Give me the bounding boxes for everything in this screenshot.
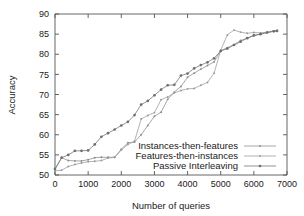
series-point (207, 81, 209, 83)
series-point (140, 103, 143, 106)
series-point (233, 29, 235, 31)
x-axis-title: Number of queries (132, 200, 210, 211)
series-point (167, 98, 169, 100)
series-point (160, 111, 162, 113)
series-point (233, 44, 236, 47)
series-point (93, 143, 96, 146)
series-point (140, 118, 142, 120)
series-point (226, 34, 228, 36)
series-point (107, 132, 110, 135)
series-point (81, 160, 83, 162)
series-point (80, 150, 83, 153)
series-point (272, 30, 275, 33)
series-point (200, 84, 202, 86)
y-tick-label: 55 (39, 150, 49, 160)
legend-sample-1 (244, 145, 276, 147)
series-point (87, 161, 89, 163)
line-chart: 505560657075808590 010002000300040005000… (0, 0, 304, 216)
series-point (266, 31, 269, 34)
chart-figure: 505560657075808590 010002000300040005000… (0, 0, 304, 216)
series-point (246, 32, 248, 34)
y-tick-label: 60 (39, 130, 49, 140)
series-point (213, 72, 215, 74)
legend-sample-2 (244, 155, 276, 157)
series-point (67, 154, 70, 157)
x-tick-label: 6000 (244, 179, 264, 189)
x-tick-label: 4000 (178, 179, 198, 189)
series-point (127, 121, 130, 124)
x-axis-tick-labels: 01000200030004000500060007000 (52, 179, 297, 189)
series-point (94, 160, 96, 162)
series-point (153, 115, 155, 117)
series-point (113, 128, 116, 131)
x-tick-label: 3000 (144, 179, 164, 189)
series-point (94, 157, 96, 159)
y-tick-label: 75 (39, 70, 49, 80)
series-point (259, 33, 262, 36)
series-point (193, 67, 196, 70)
series-point (226, 47, 229, 50)
series-point (193, 72, 195, 74)
y-tick-label: 50 (39, 170, 49, 180)
x-tick-label: 5000 (211, 179, 231, 189)
series-point (253, 32, 255, 34)
y-axis-title: Accuracy (6, 75, 17, 114)
series-point (167, 96, 169, 98)
series-point (147, 114, 149, 116)
series-point (61, 169, 63, 171)
series-point (219, 50, 222, 53)
series-point (173, 83, 176, 86)
x-tick-label: 2000 (111, 179, 131, 189)
x-tick-label: 0 (52, 179, 57, 189)
x-tick-label: 1000 (78, 179, 98, 189)
y-tick-label: 90 (39, 9, 49, 19)
legend-label-3: Passive Interleaving (153, 160, 238, 171)
series-point (74, 150, 77, 153)
series-point (127, 143, 129, 145)
series-point (67, 166, 69, 168)
series-point (240, 31, 242, 33)
series-point (120, 124, 123, 127)
series-point (239, 40, 242, 43)
series-point (246, 37, 249, 40)
series-point (81, 162, 83, 164)
series-point (100, 156, 102, 158)
series-point (206, 61, 209, 64)
series-point (160, 99, 162, 101)
series-point (133, 114, 136, 117)
series-point (180, 86, 182, 88)
series-point (166, 84, 169, 87)
series-point (120, 149, 122, 151)
chart-legend: Instances-then-featuresFeatures-then-ins… (136, 140, 276, 171)
series-point (160, 88, 163, 91)
series-point (153, 112, 155, 114)
series-point (187, 88, 189, 90)
series-point (87, 159, 89, 161)
y-axis-tick-labels: 505560657075808590 (39, 9, 49, 180)
legend-sample-3 (244, 165, 276, 168)
series-point (67, 160, 69, 162)
series-point (276, 30, 279, 33)
series-point (200, 68, 202, 70)
series-point (153, 94, 156, 97)
series-point (114, 156, 116, 158)
series-point (180, 74, 183, 77)
series-point (54, 168, 57, 171)
series-point (193, 88, 195, 90)
series-point (140, 134, 142, 136)
series-point (213, 61, 215, 63)
series-point (199, 64, 202, 67)
series-point (213, 57, 216, 60)
series-point (107, 157, 109, 159)
series-point (100, 135, 103, 138)
series-point (60, 156, 63, 159)
series-point (253, 34, 256, 37)
series-point (207, 65, 209, 67)
series-point (74, 160, 76, 162)
y-tick-label: 70 (39, 90, 49, 100)
series-point (147, 125, 149, 127)
x-tick-label: 7000 (277, 179, 297, 189)
series-point (146, 100, 149, 103)
series-point (134, 140, 136, 142)
series-point (100, 160, 102, 162)
